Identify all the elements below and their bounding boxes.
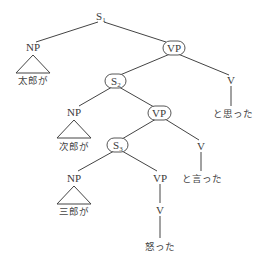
node-vp3: VP	[153, 172, 167, 184]
v3-text: 怒った	[145, 241, 175, 252]
edge-s3-np3	[78, 151, 114, 171]
np1-triangle	[16, 55, 50, 73]
node-vp2: VP	[152, 107, 166, 119]
edge-vp2-v2	[165, 119, 199, 140]
node-np1: NP	[26, 41, 40, 53]
v2-text: と言った	[182, 173, 222, 184]
node-np2: NP	[67, 106, 81, 118]
edge-vp1-s2	[120, 54, 170, 75]
node-vp1: VP	[167, 42, 181, 54]
edge-vp2-s3	[122, 119, 156, 139]
node-v2: V	[197, 140, 205, 152]
edge-s3-vp3	[122, 151, 157, 171]
edge-s2-np2	[79, 87, 112, 106]
np1-text: 太郎が	[18, 75, 48, 86]
np3-text: 三郎が	[59, 206, 89, 217]
node-v3: V	[156, 204, 164, 216]
edge-s1-np1	[36, 22, 98, 42]
node-np3: NP	[67, 172, 81, 184]
edge-vp1-v1	[178, 54, 229, 75]
np2-text: 次郎が	[59, 141, 89, 152]
v1-text: と思った	[213, 108, 253, 119]
edge-s2-vp2	[119, 87, 154, 107]
node-s1: S1	[96, 10, 106, 24]
np2-triangle	[57, 120, 91, 138]
edge-s1-vp1	[104, 22, 166, 42]
syntax-tree-diagram: S1 NP 太郎が VP S2 V と思った NP 次郎が VP S3 V と言…	[0, 0, 258, 263]
np3-triangle	[57, 186, 91, 204]
node-v1: V	[227, 74, 235, 86]
